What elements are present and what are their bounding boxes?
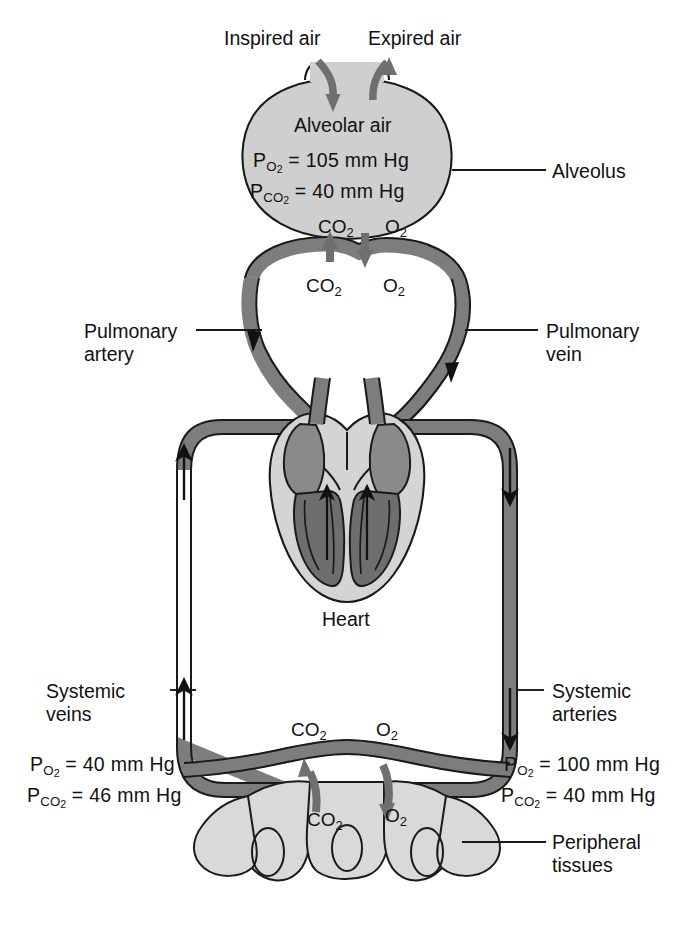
pulmonary-artery-callout-label: Pulmonary artery: [84, 320, 177, 366]
venous-po2-number: = 40 mm Hg: [65, 753, 175, 775]
tissue-co2-text: CO2: [307, 809, 343, 830]
pulmonary-vein-callout-label: Pulmonary vein: [546, 320, 639, 366]
arterial-po2-subscript: O2: [517, 763, 533, 778]
alveolar-o2-label: O2: [385, 216, 407, 240]
pulmonary-blood-co2-text: CO2: [306, 275, 342, 296]
systemic-arteries-line2: arteries: [552, 703, 631, 726]
tissue-blood-co2-text: CO2: [291, 719, 327, 740]
pulmonary-loop-outline: [245, 237, 470, 426]
peripheral-tissues-line1: Peripheral: [552, 831, 641, 854]
venous-po2-value: PO2 = 40 mm Hg: [30, 753, 175, 780]
venous-po2-symbol: P: [30, 753, 43, 775]
arterial-pco2-number: = 40 mm Hg: [546, 784, 656, 806]
arterial-po2-value: PO2 = 100 mm Hg: [504, 753, 660, 780]
expired-air-label: Expired air: [368, 27, 461, 50]
peripheral-tissues-callout-label: Peripheral tissues: [552, 831, 641, 877]
arterial-pco2-symbol: P: [501, 784, 514, 806]
pulmonary-artery-line1: Pulmonary: [84, 320, 177, 343]
alveolar-pco2-subscript: CO2: [263, 190, 289, 205]
venous-po2-subscript: O2: [43, 763, 59, 778]
arterial-po2-number: = 100 mm Hg: [539, 753, 660, 775]
pulmonary-blood-o2-text: O2: [383, 275, 405, 296]
pulmonary-vein-line1: Pulmonary: [546, 320, 639, 343]
tissue-co2-label: CO2: [307, 809, 343, 833]
systemic-veins-line2: veins: [46, 703, 125, 726]
alveolar-co2-label: CO2: [318, 216, 354, 240]
diagram-canvas: Inspired air Expired air Alveolar air PO…: [0, 0, 694, 927]
systemic-veins-callout-label: Systemic veins: [46, 680, 125, 726]
tissue-blood-co2-label: CO2: [291, 719, 327, 743]
systemic-arteries-line1: Systemic: [552, 680, 631, 703]
venous-pco2-value: PCO2 = 46 mm Hg: [27, 784, 182, 811]
arterial-po2-symbol: P: [504, 753, 517, 775]
pulmonary-blood-co2-label: CO2: [306, 275, 342, 299]
pulmonary-blood-o2-label: O2: [383, 275, 405, 299]
tissue-blood-o2-text: O2: [376, 719, 398, 740]
alveolar-po2-number: = 105 mm Hg: [288, 149, 409, 171]
heart-label: Heart: [322, 608, 370, 631]
alveolus-callout-label: Alveolus: [552, 160, 626, 183]
alveolar-air-title: Alveolar air: [294, 114, 392, 137]
arterial-pco2-subscript: CO2: [514, 794, 540, 809]
alveolar-pco2-symbol: P: [250, 180, 263, 202]
tissue-capillary-bed: [184, 740, 510, 777]
alveolar-pco2-value: PCO2 = 40 mm Hg: [250, 180, 405, 207]
alveolar-pco2-number: = 40 mm Hg: [295, 180, 405, 202]
tissue-o2-text: O2: [385, 805, 407, 826]
alveolar-o2-text: O2: [385, 216, 407, 237]
alveolar-co2-text: CO2: [318, 216, 354, 237]
tissue-blood-o2-label: O2: [376, 719, 398, 743]
tissue-o2-label: O2: [385, 805, 407, 829]
inspired-air-label: Inspired air: [224, 27, 320, 50]
peripheral-tissues-line2: tissues: [552, 854, 641, 877]
venous-pco2-symbol: P: [27, 784, 40, 806]
arterial-pco2-value: PCO2 = 40 mm Hg: [501, 784, 656, 811]
systemic-veins-line1: Systemic: [46, 680, 125, 703]
venous-pco2-number: = 46 mm Hg: [72, 784, 182, 806]
alveolar-po2-subscript: O2: [266, 159, 282, 174]
systemic-arteries-callout-label: Systemic arteries: [552, 680, 631, 726]
alveolar-po2-symbol: P: [253, 149, 266, 171]
venous-pco2-subscript: CO2: [40, 794, 66, 809]
pulmonary-artery-line2: artery: [84, 343, 177, 366]
pulmonary-vein-line2: vein: [546, 343, 639, 366]
alveolar-po2-value: PO2 = 105 mm Hg: [253, 149, 409, 176]
